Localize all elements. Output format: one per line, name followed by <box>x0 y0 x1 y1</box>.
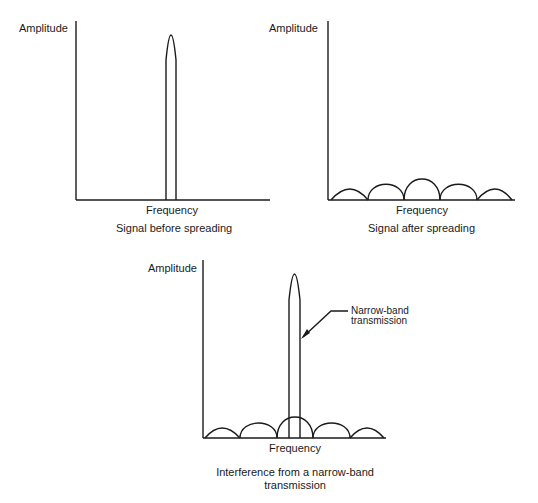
y-axis-label: Amplitude <box>269 22 318 35</box>
lobe <box>331 189 368 200</box>
lobe <box>440 184 477 200</box>
annotation-label: Narrow-band transmission <box>351 306 409 326</box>
lobe <box>205 428 240 438</box>
lobe <box>240 423 277 438</box>
caption-line-1: Interference from a narrow-band <box>200 466 390 479</box>
lobe <box>350 428 384 438</box>
caption-line-2: transmission <box>200 479 390 492</box>
diagram-canvas <box>0 0 538 503</box>
arrowhead-icon <box>301 329 310 339</box>
lobe <box>477 189 512 200</box>
annotation-line-2: transmission <box>351 316 409 326</box>
chart-before-spreading <box>76 21 270 200</box>
y-axis-label: Amplitude <box>148 262 197 275</box>
figure-caption: Signal after spreading <box>368 222 475 235</box>
narrow-band-peak <box>289 274 300 438</box>
lobe <box>277 417 313 438</box>
lobe <box>404 179 440 200</box>
x-axis-label: Frequency <box>146 204 198 217</box>
x-axis-label: Frequency <box>269 442 321 455</box>
narrow-signal-peak <box>166 35 176 200</box>
chart-after-spreading <box>328 21 515 200</box>
figure-caption: Signal before spreading <box>116 222 232 235</box>
lobe <box>368 184 404 200</box>
lobe <box>313 423 350 438</box>
figure-caption: Interference from a narrow-band transmis… <box>200 466 390 492</box>
y-axis-label: Amplitude <box>19 22 68 35</box>
chart-interference <box>203 260 386 438</box>
x-axis-label: Frequency <box>396 204 448 217</box>
